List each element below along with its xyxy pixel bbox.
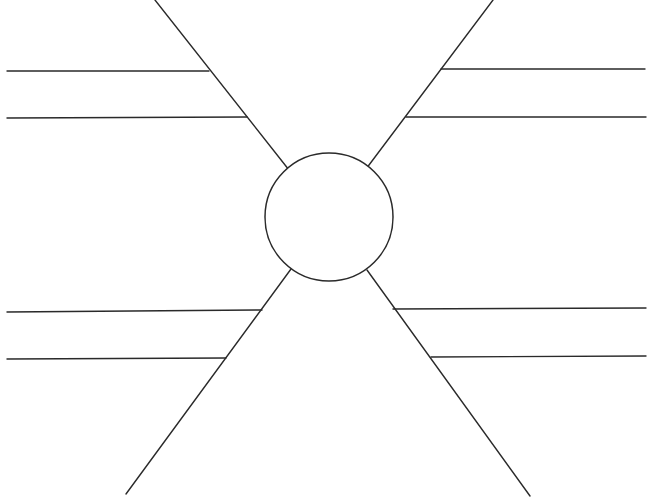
leg-lower-left (7, 269, 291, 494)
leg-diagonal-upper-right (366, 0, 493, 169)
leg-upper-right (366, 0, 646, 169)
leg-diagonal-lower-left (126, 269, 291, 494)
branch-line-lower-left-1 (7, 310, 262, 312)
branch-line-lower-right-2 (431, 356, 646, 357)
branch-line-lower-right-1 (393, 308, 646, 309)
leg-lower-right (367, 270, 646, 496)
clipped-footer-text (0, 496, 650, 503)
central-hub-circle (265, 153, 393, 281)
spider-map-diagram (0, 0, 650, 503)
branch-line-upper-left-2 (7, 117, 247, 118)
leg-diagonal-lower-right (367, 270, 530, 496)
leg-diagonal-upper-left (155, 0, 289, 170)
branch-line-lower-left-2 (7, 358, 226, 359)
leg-upper-left (7, 0, 289, 170)
